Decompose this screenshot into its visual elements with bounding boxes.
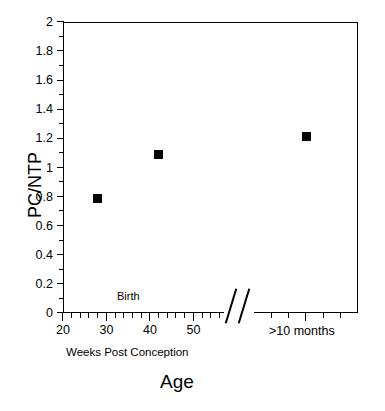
y-axis-tick-label: 1.8	[19, 45, 53, 58]
x-axis-minor-tick	[115, 313, 116, 318]
y-axis-major-tick	[57, 167, 64, 168]
y-axis-tick-label: 1.4	[19, 103, 53, 116]
x-axis-right-segment	[254, 312, 358, 313]
x-axis-minor-tick	[202, 313, 203, 318]
x-axis-minor-tick	[88, 313, 89, 318]
x-axis-tick-label: 30	[92, 324, 122, 337]
y-axis-minor-tick	[59, 240, 64, 241]
y-axis-tick-label: 0.2	[19, 278, 53, 291]
x-axis-minor-tick	[175, 313, 176, 318]
y-axis-title: PC/NTP	[26, 152, 44, 218]
chart-title: Age	[160, 372, 194, 391]
y-axis-major-tick	[57, 21, 64, 22]
y-axis-minor-tick	[59, 152, 64, 153]
x-axis-tick-label: 20	[48, 324, 78, 337]
x-axis-tick-label: 50	[179, 324, 209, 337]
x-axis-right-segment-tick	[271, 313, 272, 318]
y-axis-minor-tick	[59, 94, 64, 95]
x-axis-right-segment-tick	[288, 313, 289, 318]
y-axis-major-tick	[57, 138, 64, 139]
x-axis-right-segment-tick	[340, 313, 341, 318]
plot-area	[63, 22, 358, 313]
y-axis-major-tick	[57, 50, 64, 51]
y-axis-minor-tick	[59, 123, 64, 124]
x-axis-major-tick	[149, 313, 150, 321]
x-axis-major-tick	[62, 313, 63, 321]
y-axis-tick-label: 0.4	[19, 249, 53, 262]
y-axis-major-tick	[57, 80, 64, 81]
data-point-marker	[93, 194, 102, 203]
y-axis-minor-tick	[59, 269, 64, 270]
y-axis-tick-label: 2	[19, 16, 53, 29]
y-axis-tick-label: 1.2	[19, 132, 53, 145]
chart-figure: 00.20.40.60.811.21.41.61.8220304050 Birt…	[0, 0, 385, 411]
x-axis-title-weeks: Weeks Post Conception	[66, 347, 189, 359]
x-axis-tick-label: 40	[135, 324, 165, 337]
x-axis-minor-tick	[123, 313, 124, 318]
y-axis-tick-label: 0	[19, 307, 53, 320]
data-point-marker	[302, 132, 311, 141]
x-axis-minor-tick	[132, 313, 133, 318]
y-axis-minor-tick	[59, 65, 64, 66]
x-axis-minor-tick	[71, 313, 72, 318]
y-axis-tick-label: 1.6	[19, 74, 53, 87]
x-axis-minor-tick	[80, 313, 81, 318]
y-axis-minor-tick	[59, 36, 64, 37]
y-axis-major-tick	[57, 254, 64, 255]
y-axis-major-tick	[57, 109, 64, 110]
x-axis-minor-tick	[210, 313, 211, 318]
x-axis-minor-tick	[141, 313, 142, 318]
x-axis-minor-tick	[219, 313, 220, 318]
x-axis-major-tick	[106, 313, 107, 321]
x-axis-minor-tick	[184, 313, 185, 318]
y-axis-minor-tick	[59, 298, 64, 299]
x-axis-right-segment-tick	[305, 313, 306, 321]
x-axis-category-label-older: >10 months	[269, 325, 335, 338]
x-axis-minor-tick	[97, 313, 98, 318]
y-axis-major-tick	[57, 225, 64, 226]
y-axis-major-tick	[57, 196, 64, 197]
y-axis-major-tick	[57, 283, 64, 284]
x-axis-minor-tick	[167, 313, 168, 318]
x-axis-minor-tick	[158, 313, 159, 318]
annotation-birth: Birth	[117, 291, 140, 302]
x-axis-right-segment-tick	[323, 313, 324, 318]
y-axis-minor-tick	[59, 210, 64, 211]
y-axis-tick-label: 0.6	[19, 220, 53, 233]
x-axis-major-tick	[193, 313, 194, 321]
y-axis-minor-tick	[59, 181, 64, 182]
data-point-marker	[154, 150, 163, 159]
